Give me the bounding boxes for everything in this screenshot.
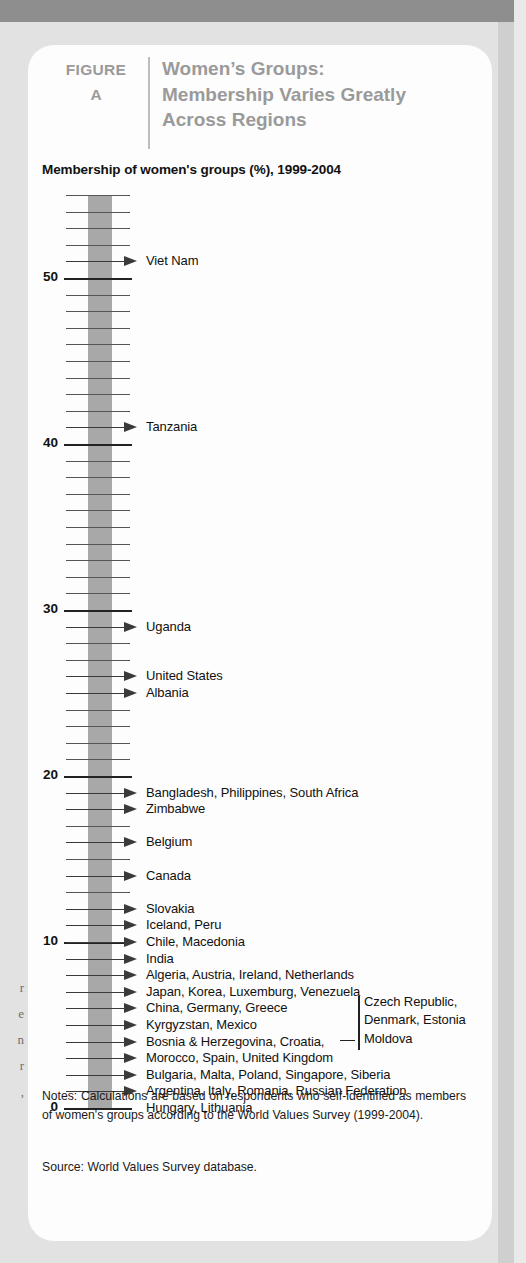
arrow-line	[66, 842, 128, 843]
arrow-line	[66, 975, 128, 976]
side-note-line: Czech Republic,	[364, 993, 494, 1011]
country-label: Tanzania	[146, 419, 197, 434]
arrow-head-icon	[124, 1070, 137, 1080]
adjacent-column-bleed: r e n r ,	[2, 975, 24, 1105]
axis-tick-label: 50	[28, 269, 58, 284]
bleed-char: r	[2, 1053, 24, 1079]
country-label: Viet Nam	[146, 253, 198, 268]
arrow-line	[66, 627, 128, 628]
axis-tick-minor	[66, 726, 130, 727]
arrow-head-icon	[124, 256, 137, 266]
axis-band	[88, 196, 112, 1109]
axis-tick-minor	[66, 311, 130, 312]
arrow-line	[66, 909, 128, 910]
axis-tick-minor	[66, 560, 130, 561]
axis-tick-minor	[66, 245, 130, 246]
side-note-rule	[358, 996, 360, 1050]
arrow-line	[66, 261, 128, 262]
arrow-line	[66, 809, 128, 810]
arrow-head-icon	[124, 422, 137, 432]
axis-tick-minor	[66, 212, 130, 213]
bleed-char: n	[2, 1027, 24, 1053]
country-label: Zimbabwe	[146, 801, 205, 816]
axis-tick-label: 20	[28, 767, 58, 782]
arrow-line	[66, 1025, 128, 1026]
arrow-head-icon	[124, 970, 137, 980]
country-label: Bangladesh, Philippines, South Africa	[146, 785, 358, 800]
side-note-text: Czech Republic, Denmark, Estonia Moldova	[364, 993, 494, 1048]
arrow-line	[66, 1042, 128, 1043]
country-label: Kyrgyzstan, Mexico	[146, 1017, 257, 1032]
axis-tick-minor	[66, 195, 130, 196]
arrow-line	[66, 427, 128, 428]
axis-tick-minor	[66, 759, 130, 760]
arrow-line	[66, 959, 128, 960]
arrow-head-icon	[124, 904, 137, 914]
arrow-head-icon	[124, 1003, 137, 1013]
axis-tick-minor	[66, 892, 130, 893]
arrow-line	[66, 1075, 128, 1076]
axis-tick-label: 10	[28, 933, 58, 948]
country-label: Bulgaria, Malta, Poland, Singapore, Sibe…	[146, 1067, 390, 1082]
axis-tick-label: 40	[28, 435, 58, 450]
arrow-head-icon	[124, 920, 137, 930]
axis-tick-minor	[66, 826, 130, 827]
axis-tick-minor	[66, 593, 130, 594]
axis-tick-major	[64, 444, 132, 446]
country-label: United States	[146, 668, 223, 683]
country-label: Iceland, Peru	[146, 917, 221, 932]
axis-tick-minor	[66, 344, 130, 345]
axis-tick-major	[64, 278, 132, 280]
country-label: Uganda	[146, 619, 191, 634]
arrow-head-icon	[124, 937, 137, 947]
arrow-head-icon	[124, 1053, 137, 1063]
country-label: India	[146, 951, 174, 966]
arrow-line	[66, 793, 128, 794]
arrow-head-icon	[124, 788, 137, 798]
axis-tick-minor	[66, 743, 130, 744]
axis-tick-minor	[66, 643, 130, 644]
axis-tick-minor	[66, 859, 130, 860]
bleed-char: r	[2, 975, 24, 1001]
country-label: Bosnia & Herzegovina, Croatia,	[146, 1034, 324, 1049]
arrow-line	[66, 992, 128, 993]
axis-tick-minor	[66, 544, 130, 545]
arrow-head-icon	[124, 671, 137, 681]
country-label: Canada	[146, 868, 191, 883]
axis-tick-major	[64, 776, 132, 778]
axis-tick-minor	[66, 461, 130, 462]
arrow-head-icon	[124, 1037, 137, 1047]
axis-tick-minor	[66, 378, 130, 379]
axis-tick-minor	[66, 361, 130, 362]
arrow-line	[66, 693, 128, 694]
figure-card: FIGURE A Women’s Groups: Membership Vari…	[28, 45, 492, 1241]
arrow-line	[66, 942, 128, 943]
arrow-head-icon	[124, 688, 137, 698]
axis-tick-minor	[66, 477, 130, 478]
arrow-head-icon	[124, 1020, 137, 1030]
axis-tick-minor	[66, 710, 130, 711]
arrow-head-icon	[124, 804, 137, 814]
arrow-head-icon	[124, 954, 137, 964]
bleed-char: e	[2, 1001, 24, 1027]
side-note-connector	[340, 1040, 355, 1041]
side-note-line: Moldova	[364, 1030, 494, 1048]
axis-tick-minor	[66, 328, 130, 329]
arrow-head-icon	[124, 871, 137, 881]
chart-plot-area: 01020304050 Viet NamTanzaniaUgandaUnited…	[28, 45, 492, 1241]
axis-tick-minor	[66, 394, 130, 395]
side-note-line: Denmark, Estonia	[364, 1011, 494, 1029]
axis-tick-major	[64, 610, 132, 612]
axis-tick-label: 30	[28, 601, 58, 616]
country-label: Algeria, Austria, Ireland, Netherlands	[146, 967, 354, 982]
axis-tick-minor	[66, 527, 130, 528]
country-label: Slovakia	[146, 901, 194, 916]
arrow-head-icon	[124, 837, 137, 847]
axis-tick-minor	[66, 577, 130, 578]
arrow-head-icon	[124, 987, 137, 997]
page-outer-edge	[514, 0, 526, 1263]
page-top-bar	[0, 0, 526, 22]
country-label: Chile, Macedonia	[146, 934, 245, 949]
arrow-line	[66, 876, 128, 877]
arrow-head-icon	[124, 622, 137, 632]
